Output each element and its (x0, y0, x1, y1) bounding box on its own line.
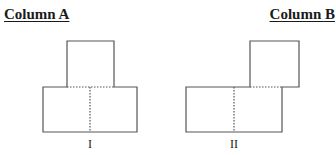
figure-ii (186, 41, 299, 132)
figure-i-label: I (88, 137, 92, 152)
figure-i (43, 41, 137, 132)
figure-ii-outline (186, 41, 299, 132)
figure-ii-label: II (230, 137, 238, 152)
figures-canvas (0, 0, 336, 155)
